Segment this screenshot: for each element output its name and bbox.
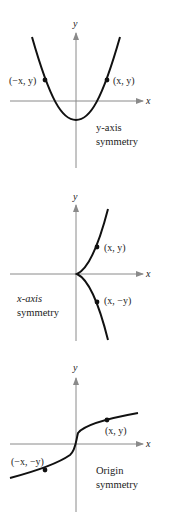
symmetry-diagrams: x y (−x, y) (x, y) y-axis symmetry x y (…	[0, 0, 175, 522]
y-axis-label: y	[72, 362, 78, 373]
panel-x-axis-symmetry: x y (x, y) (x, −y) x-axis symmetry	[10, 191, 151, 341]
panel-y-axis-symmetry: x y (−x, y) (x, y) y-axis symmetry	[9, 18, 151, 168]
y-axis-label: y	[72, 191, 78, 202]
x-axis-label: x	[145, 268, 151, 279]
caption-line-2: symmetry	[17, 307, 60, 318]
point-upper-label: (x, y)	[104, 242, 126, 254]
caption-line-1: Origin	[96, 465, 124, 476]
y-axis-label: y	[72, 18, 78, 29]
point-upper-right	[105, 418, 110, 423]
x-axis-label: x	[145, 95, 151, 106]
point-right-label: (x, y)	[113, 75, 135, 87]
point-right	[105, 78, 110, 83]
caption-line-2: symmetry	[96, 136, 139, 147]
point-upper	[95, 245, 100, 250]
point-lower-label: (x, −y)	[104, 295, 131, 307]
caption-line-2: symmetry	[96, 479, 139, 490]
point-left-label: (−x, y)	[9, 75, 36, 87]
point-lower-left	[43, 468, 48, 473]
x-axis-label: x	[145, 438, 151, 449]
caption-line-1: x-axis	[16, 293, 42, 304]
point-lower	[95, 300, 100, 305]
point-upper-right-label: (x, y)	[105, 425, 127, 437]
panel-origin-symmetry: x y (x, y) (−x, −y) Origin symmetry	[10, 362, 151, 512]
caption-line-1: y-axis	[96, 122, 122, 133]
point-left	[43, 78, 48, 83]
point-lower-left-label: (−x, −y)	[11, 456, 44, 468]
